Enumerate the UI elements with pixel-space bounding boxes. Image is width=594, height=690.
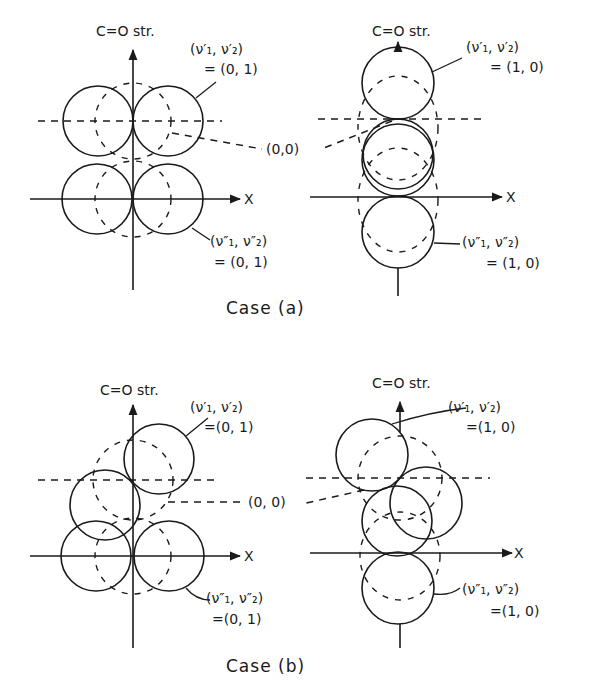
caption-case-a: Case (a) (226, 298, 305, 318)
lower-state-label: (ν″₁, ν″₂) (206, 590, 263, 606)
upper-state-value: = (1, 0) (490, 59, 544, 75)
lower-state-label: (ν″₁, ν″₂) (462, 581, 519, 597)
ground-state-dashed-ellipse-lower (358, 148, 438, 252)
vibrational-state-diagram: C=O str. X (ν′₁, ν′₂) = (0, 1) (ν″₁, ν″₂… (0, 0, 594, 690)
panel-b-right: C=O str. X (ν′₁, ν′₂) =(1, 0) (ν″₁, ν″₂)… (302, 375, 539, 648)
middle-lobe (362, 486, 432, 556)
lower-label-leader (192, 228, 210, 240)
panel-b-left: C=O str. X (ν′₁, ν′₂) =(0, 1) (ν″₁, ν″₂)… (30, 382, 263, 648)
ground-state-label-b: (0, 0) (248, 494, 286, 510)
lower-state-value: =(0, 1) (212, 611, 261, 627)
upper-state-label: (ν′₁, ν′₂) (466, 39, 519, 55)
panel-a-right: C=O str. X (ν′₁, ν′₂) = (1, 0) (ν″₁, ν″₂… (310, 23, 544, 296)
x-axis-label: X (514, 545, 524, 561)
upper-label-leader (432, 58, 462, 72)
ground-state-label-a: (0,0) (266, 141, 299, 157)
lower-label-leader (434, 588, 460, 594)
upper-state-label: (ν′₁, ν′₂) (448, 399, 501, 415)
ground-label-leader (302, 490, 364, 504)
lower-state-label: (ν″₁, ν″₂) (210, 233, 267, 249)
lower-state-lobe-bottom (362, 196, 434, 268)
caption-case-b: Case (b) (226, 656, 305, 676)
y-axis-label: C=O str. (372, 375, 431, 391)
ground-label-leader (172, 133, 262, 149)
x-axis-label: X (244, 548, 254, 564)
lower-label-leader (434, 243, 460, 244)
upper-state-label: (ν′₁, ν′₂) (190, 399, 243, 415)
lower-state-value: = (0, 1) (214, 254, 268, 270)
middle-lobe-b (362, 124, 434, 196)
upper-state-value: = (0, 1) (204, 61, 258, 77)
lower-state-value: = (1, 0) (486, 255, 540, 271)
lower-state-value: =(1, 0) (490, 603, 539, 619)
x-axis-label: X (244, 191, 254, 207)
upper-state-label: (ν′₁, ν′₂) (190, 41, 243, 57)
upper-state-value: =(0, 1) (204, 419, 253, 435)
y-axis-label: C=O str. (100, 382, 159, 398)
upper-state-value: =(1, 0) (466, 419, 515, 435)
y-axis-label: C=O str. (372, 23, 431, 39)
middle-lobe-a (363, 119, 433, 189)
excited-state-lobe-top (362, 47, 434, 119)
ground-state-dashed-ellipse-upper (358, 76, 438, 180)
panel-a-left: C=O str. X (ν′₁, ν′₂) = (0, 1) (ν″₁, ν″₂… (30, 23, 268, 290)
upper-label-leader (196, 82, 216, 98)
excited-state-lobe-right (124, 424, 194, 494)
lower-state-label: (ν″₁, ν″₂) (462, 234, 519, 250)
y-axis-label: C=O str. (96, 23, 155, 39)
x-axis-label: X (506, 189, 516, 205)
